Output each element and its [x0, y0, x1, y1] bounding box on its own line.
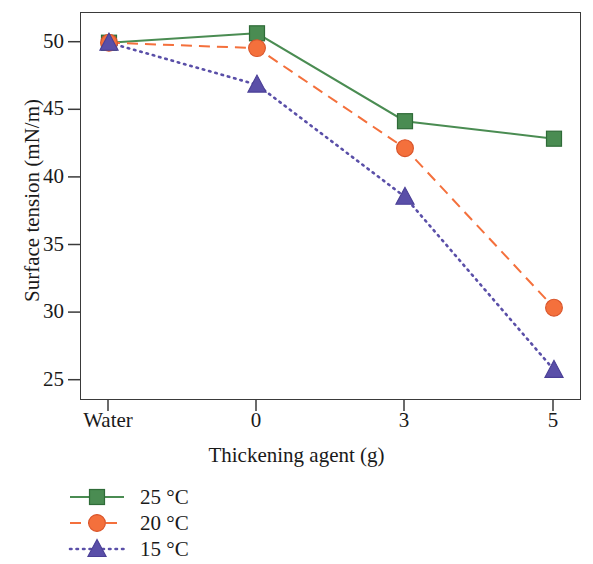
legend-item-1[interactable]: 20 °C — [68, 510, 189, 536]
data-point-marker — [398, 114, 413, 129]
legend-key-square-icon — [68, 485, 126, 509]
series-line-1 — [109, 43, 554, 308]
data-point-marker — [397, 140, 414, 157]
legend-label: 15 °C — [140, 537, 189, 562]
x-tick-label: 3 — [344, 408, 464, 433]
data-point-marker — [546, 299, 563, 316]
data-point-marker — [250, 26, 265, 41]
plot-series-layer — [81, 13, 582, 401]
x-tick-label: 5 — [493, 408, 593, 433]
x-axis-title: Thickening agent (g) — [0, 443, 593, 468]
legend-key-circle-icon — [68, 511, 126, 535]
legend-item-2[interactable]: 15 °C — [68, 536, 189, 562]
data-point-marker — [249, 40, 266, 57]
figure-canvas: 253035404550 Surface tension (mN/m) Wate… — [0, 0, 593, 564]
legend-label: 20 °C — [140, 511, 189, 536]
data-point-marker — [396, 187, 414, 204]
legend-item-0[interactable]: 25 °C — [68, 484, 189, 510]
x-tick-label: 0 — [196, 408, 316, 433]
plot-area — [80, 12, 581, 400]
y-axis-tick-marks — [64, 0, 84, 420]
series-line-0 — [109, 33, 554, 138]
legend-key-triangle-icon — [68, 537, 126, 561]
data-point-marker — [547, 131, 562, 146]
x-tick-label: Water — [48, 408, 168, 433]
y-axis-title: Surface tension (mN/m) — [20, 71, 45, 331]
legend-label: 25 °C — [140, 485, 189, 510]
legend: 25 °C20 °C15 °C — [68, 484, 189, 562]
data-point-marker — [248, 75, 266, 92]
y-tick-label: 50 — [20, 31, 64, 52]
y-tick-label: 25 — [20, 369, 64, 390]
series-line-2 — [109, 43, 554, 370]
